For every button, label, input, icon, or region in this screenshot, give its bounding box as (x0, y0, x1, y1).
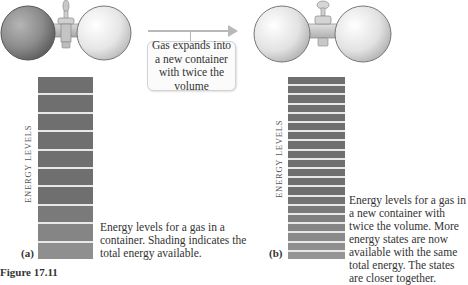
energy-level-band (288, 86, 345, 95)
flask-apparatus-after (248, 0, 408, 68)
energy-level-band (38, 224, 93, 242)
energy-level-band (288, 95, 345, 104)
energy-level-band (288, 215, 345, 224)
panel-label-a: (a) (21, 247, 34, 259)
energy-level-band (288, 114, 345, 123)
axis-label-b: ENERGY LEVELS (274, 122, 284, 198)
energy-level-band (288, 169, 345, 178)
expansion-callout: Gas expands into a new container with tw… (147, 41, 236, 91)
energy-level-band (288, 123, 345, 132)
energy-level-band (288, 243, 345, 252)
caption-b: Energy levels for a gas in a new contain… (349, 194, 468, 285)
energy-level-band (288, 160, 345, 169)
caption-a: Energy levels for a gas in a container. … (100, 221, 252, 260)
flask-apparatus-before (0, 0, 140, 68)
energy-level-band (288, 132, 345, 141)
energy-level-band (38, 151, 93, 169)
energy-level-band (38, 77, 93, 95)
energy-level-band (288, 151, 345, 160)
energy-level-band (38, 114, 93, 132)
energy-level-band (288, 197, 345, 206)
arrow-head-icon (228, 25, 238, 37)
figure-caption: Figure 17.11 (0, 266, 58, 278)
energy-level-band (288, 141, 345, 150)
callout-text: Gas expands into a new container with tw… (150, 39, 233, 93)
energy-level-band (38, 206, 93, 224)
energy-levels-a (38, 77, 93, 259)
energy-level-band (38, 187, 93, 205)
energy-level-band (288, 252, 345, 259)
panel-label-b: (b) (269, 247, 282, 259)
energy-level-band (38, 95, 93, 113)
energy-level-band (288, 187, 345, 196)
energy-level-band (288, 77, 345, 86)
energy-level-band (288, 178, 345, 187)
energy-levels-b (288, 77, 345, 259)
energy-level-band (288, 105, 345, 114)
energy-level-band (288, 233, 345, 242)
energy-level-band (288, 224, 345, 233)
energy-level-band (38, 169, 93, 187)
energy-level-band (38, 132, 93, 150)
energy-level-band (288, 206, 345, 215)
energy-level-band (38, 243, 93, 259)
axis-label-a: ENERGY LEVELS (23, 127, 33, 203)
